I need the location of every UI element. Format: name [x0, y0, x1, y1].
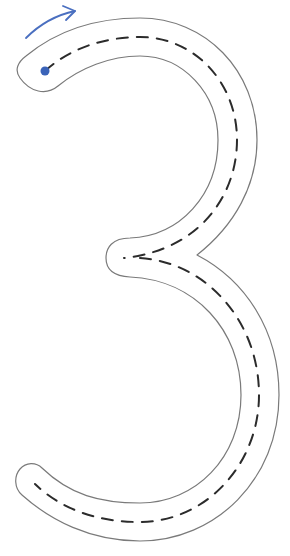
tracing-canvas: Number 3 tracing path [0, 0, 290, 556]
upper-guide-path [45, 37, 237, 258]
direction-arrow-icon [26, 6, 75, 38]
guide-dashes [35, 37, 259, 522]
lower-guide-path [35, 258, 259, 522]
start-dot [41, 67, 50, 76]
number-three-tracing-figure [0, 0, 290, 556]
